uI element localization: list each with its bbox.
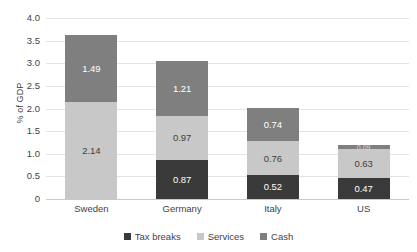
legend-item[interactable]: Cash: [260, 231, 293, 242]
legend-label: Services: [208, 231, 244, 242]
bar-segment[interactable]: 0.87: [156, 160, 208, 199]
bar-stack[interactable]: 0.470.630.09: [338, 145, 390, 199]
y-axis-tick-label: 1.5: [0, 125, 40, 136]
bar-segment[interactable]: 0.76: [247, 141, 299, 175]
bar-segment[interactable]: 0.47: [338, 178, 390, 199]
gridline: [46, 18, 409, 19]
y-axis-tick-label: 4.0: [0, 12, 40, 23]
x-axis-category-label: Sweden: [46, 203, 136, 214]
stacked-bar-chart: % of GDP 4.03.53.02.52.01.51.00.50 2.141…: [0, 0, 417, 252]
bar-segment[interactable]: 0.74: [247, 108, 299, 141]
x-axis-category-labels: SwedenGermanyItalyUS: [46, 203, 409, 219]
bar-segment[interactable]: 0.97: [156, 116, 208, 160]
bar-value-label: 0.47: [354, 184, 373, 194]
bar-segment[interactable]: 0.63: [338, 149, 390, 178]
bar-segment[interactable]: 0.09: [338, 145, 390, 149]
y-axis-tick-label: 3.5: [0, 35, 40, 46]
bar-stack[interactable]: 0.520.760.74: [247, 108, 299, 199]
bar-segment[interactable]: 2.14: [65, 102, 117, 199]
chart-legend: Tax breaksServicesCash: [0, 231, 417, 242]
y-axis-tick-label: 2.0: [0, 103, 40, 114]
plot-area: 2.141.490.870.971.210.520.760.740.470.63…: [46, 18, 409, 199]
y-axis-tick-label: 3.0: [0, 57, 40, 68]
bar-value-label: 1.49: [82, 64, 101, 74]
x-axis-category-label: Italy: [228, 203, 318, 214]
y-axis-tick-label: 0: [0, 193, 40, 204]
y-axis-tick-label: 1.0: [0, 148, 40, 159]
bar-value-label: 0.76: [264, 154, 283, 164]
bar-segment[interactable]: 1.21: [156, 61, 208, 116]
bar-value-label: 2.14: [82, 146, 101, 156]
legend-item[interactable]: Tax breaks: [124, 231, 181, 242]
bar-value-label: 0.09: [357, 144, 371, 151]
bar-value-label: 1.21: [173, 84, 192, 94]
legend-item[interactable]: Services: [197, 231, 244, 242]
bar-stack[interactable]: 0.870.971.21: [156, 61, 208, 199]
bar-stack[interactable]: 2.141.49: [65, 35, 117, 199]
legend-swatch-icon: [124, 233, 131, 240]
legend-label: Tax breaks: [135, 231, 181, 242]
legend-swatch-icon: [260, 233, 267, 240]
legend-swatch-icon: [197, 233, 204, 240]
y-axis-tick-label: 0.5: [0, 170, 40, 181]
bar-segment[interactable]: 1.49: [65, 35, 117, 102]
y-axis-tick-label: 2.5: [0, 80, 40, 91]
bar-segment[interactable]: 0.52: [247, 175, 299, 199]
bar-value-label: 0.74: [264, 120, 283, 130]
x-axis-category-label: Germany: [137, 203, 227, 214]
bar-value-label: 0.87: [173, 175, 192, 185]
x-axis-category-label: US: [319, 203, 409, 214]
bar-value-label: 0.97: [173, 133, 192, 143]
bar-value-label: 0.63: [354, 159, 373, 169]
bar-value-label: 0.52: [264, 182, 283, 192]
x-axis-line: [46, 199, 409, 200]
legend-label: Cash: [271, 231, 293, 242]
